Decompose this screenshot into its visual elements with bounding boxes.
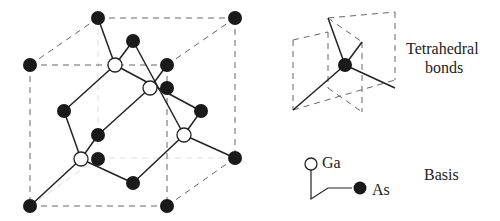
ga-atom <box>74 152 88 166</box>
as-atom <box>23 199 37 213</box>
as-atom <box>160 199 174 213</box>
as-atom <box>57 104 71 118</box>
tetrahedral-center-atom <box>338 58 352 72</box>
as-atom <box>91 128 105 142</box>
as-atom <box>228 11 242 25</box>
diagram-canvas <box>0 0 500 221</box>
as-label: As <box>372 181 390 199</box>
as-atom <box>23 58 37 72</box>
tetrahedral-label-line2: bonds <box>425 59 463 77</box>
as-atom <box>126 176 140 190</box>
as-atom <box>91 11 105 25</box>
as-atom <box>160 81 174 95</box>
basis-label: Basis <box>424 166 459 184</box>
basis-ga-atom <box>305 158 317 170</box>
basis-as-atom <box>354 182 367 195</box>
ga-atom <box>177 128 191 142</box>
as-atom <box>160 58 174 72</box>
ga-label: Ga <box>322 154 341 172</box>
as-atom <box>91 152 105 166</box>
as-atom <box>228 151 242 165</box>
ga-atom <box>143 81 157 95</box>
ga-atom <box>108 58 122 72</box>
as-atom <box>126 34 140 48</box>
as-atom <box>194 104 208 118</box>
tetrahedral-inset <box>293 12 395 112</box>
tetrahedral-label-line1: Tetrahedral <box>406 40 479 58</box>
